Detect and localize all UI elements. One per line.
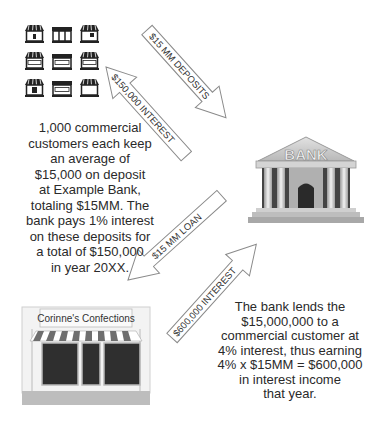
storefront-icon: Corinne's Confections [20, 303, 152, 407]
loan-explanation: The bank lends the $15,000,000 to a comm… [210, 300, 370, 402]
svg-text:BANK: BANK [284, 146, 327, 163]
borrower-storefront: Corinne's Confections [20, 303, 152, 407]
awning [30, 331, 142, 341]
bank-building: BANK [248, 133, 364, 225]
svg-text:Corinne's Confections: Corinne's Confections [37, 313, 135, 324]
deposits-explanation: 1,000 commercial customers each keep an … [10, 120, 170, 275]
bank-icon: BANK [248, 133, 364, 225]
svg-text:$15 MM DEPOSITS: $15 MM DEPOSITS [147, 31, 212, 102]
